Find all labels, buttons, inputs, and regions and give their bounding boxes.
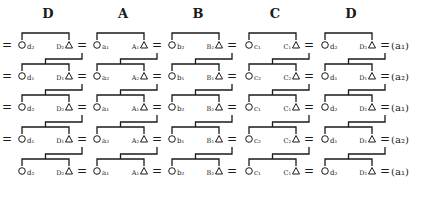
female-circle-icon — [322, 168, 329, 175]
female-label: a₂ — [102, 74, 109, 82]
marriage-link — [121, 115, 158, 127]
male-triangle-icon — [293, 42, 300, 49]
male-label: D₁ — [56, 74, 64, 82]
male-triangle-icon — [369, 168, 376, 175]
equals-sign: = — [152, 69, 162, 83]
male-triangle-icon — [66, 73, 73, 80]
sibling-bracket — [325, 127, 372, 134]
male-triangle-icon — [369, 73, 376, 80]
equals-sign: = — [152, 38, 162, 52]
female-label: d₂ — [27, 169, 34, 177]
sibling-bracket — [97, 127, 144, 134]
male-label: D₂ — [56, 169, 64, 177]
female-circle-icon — [19, 104, 26, 111]
male-label: C₁ — [283, 105, 291, 113]
sibling-bracket — [172, 33, 219, 40]
marriage-link — [196, 147, 233, 159]
female-circle-icon — [246, 168, 253, 175]
equals-sign: = — [77, 132, 87, 146]
male-label: D₂ — [359, 169, 367, 177]
female-label: d₂ — [330, 105, 337, 113]
equals-sign: = — [380, 164, 390, 178]
male-label: A₁ — [131, 169, 140, 177]
sibling-bracket — [97, 95, 144, 102]
row-tag: (a₁) — [391, 102, 409, 113]
row-tag: (a₂) — [391, 134, 409, 145]
marriage-link — [273, 147, 310, 159]
marriage-link — [273, 84, 310, 95]
equals-sign: = — [227, 38, 237, 52]
male-label: A₂ — [131, 137, 140, 145]
female-label: d₁ — [330, 137, 337, 145]
sibling-bracket — [97, 159, 144, 166]
male-label: B₂ — [207, 169, 215, 177]
female-circle-icon — [169, 104, 176, 111]
female-circle-icon — [322, 42, 329, 49]
row-tag: (a₁) — [391, 40, 409, 51]
equals-sign: = — [227, 132, 237, 146]
equals-sign: = — [304, 38, 314, 52]
female-circle-icon — [94, 42, 101, 49]
female-label: d₁ — [330, 74, 337, 82]
male-label: A₁ — [131, 105, 140, 113]
female-circle-icon — [322, 136, 329, 143]
female-circle-icon — [322, 104, 329, 111]
female-label: a₁ — [102, 43, 109, 51]
female-label: c₁ — [254, 105, 261, 113]
male-triangle-icon — [141, 136, 148, 143]
male-triangle-icon — [369, 104, 376, 111]
female-label: b₂ — [177, 169, 184, 177]
female-label: d₂ — [330, 169, 337, 177]
sibling-bracket — [172, 127, 219, 134]
male-label: B₁ — [207, 137, 215, 145]
row-tag: (a₂) — [391, 71, 409, 82]
female-label: a₂ — [102, 137, 109, 145]
female-circle-icon — [19, 136, 26, 143]
female-label: a₁ — [102, 169, 109, 177]
male-triangle-icon — [141, 104, 148, 111]
female-label: a₁ — [102, 105, 109, 113]
marriage-link — [46, 147, 83, 159]
female-label: d₁ — [27, 74, 34, 82]
female-circle-icon — [169, 42, 176, 49]
marriage-link — [349, 115, 386, 127]
row-tag: (a₁) — [391, 166, 409, 177]
male-label: D₂ — [359, 43, 367, 51]
female-label: c₂ — [254, 137, 261, 145]
male-label: D₁ — [359, 137, 367, 145]
male-label: D₂ — [359, 105, 367, 113]
female-circle-icon — [19, 168, 26, 175]
equals-sign: = — [2, 100, 12, 114]
marriage-link — [121, 53, 158, 64]
sibling-bracket — [22, 33, 69, 40]
female-circle-icon — [19, 73, 26, 80]
male-label: B₂ — [207, 105, 215, 113]
male-label: B₁ — [207, 74, 215, 82]
marriage-link — [273, 53, 310, 64]
sibling-bracket — [325, 159, 372, 166]
sibling-bracket — [249, 127, 296, 134]
sibling-bracket — [249, 159, 296, 166]
sibling-bracket — [325, 95, 372, 102]
equals-sign: = — [77, 164, 87, 178]
sibling-bracket — [97, 64, 144, 71]
male-triangle-icon — [293, 104, 300, 111]
female-label: b₂ — [177, 105, 184, 113]
male-label: D₁ — [56, 137, 64, 145]
equals-sign: = — [77, 100, 87, 114]
marriage-link — [349, 53, 386, 64]
female-label: c₁ — [254, 169, 261, 177]
equals-sign: = — [2, 38, 12, 52]
marriage-link — [273, 115, 310, 127]
sibling-bracket — [249, 64, 296, 71]
male-triangle-icon — [369, 42, 376, 49]
equals-sign: = — [304, 132, 314, 146]
equals-sign: = — [227, 164, 237, 178]
female-circle-icon — [94, 136, 101, 143]
equals-sign: = — [304, 69, 314, 83]
sibling-bracket — [22, 64, 69, 71]
equals-sign: = — [2, 69, 12, 83]
male-label: C₁ — [283, 43, 291, 51]
male-triangle-icon — [293, 168, 300, 175]
sibling-bracket — [22, 95, 69, 102]
